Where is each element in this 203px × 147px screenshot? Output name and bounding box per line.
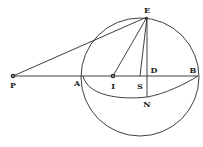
geometry-diagram: P A I S D B E N <box>0 0 203 147</box>
point-P-center <box>12 75 14 77</box>
line-IE <box>113 17 147 76</box>
label-D: D <box>151 65 158 75</box>
label-P: P <box>10 80 16 90</box>
line-SE <box>140 17 147 76</box>
label-S: S <box>137 81 143 91</box>
label-I: I <box>111 81 115 91</box>
point-I-center <box>112 75 114 77</box>
label-A: A <box>73 78 81 88</box>
label-E: E <box>144 5 150 15</box>
main-circle <box>81 18 199 136</box>
line-PE <box>13 17 147 76</box>
label-N: N <box>143 99 150 109</box>
label-B: B <box>190 65 197 75</box>
